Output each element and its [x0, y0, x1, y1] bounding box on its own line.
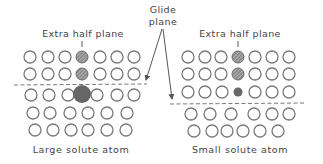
solvent-atom	[111, 51, 123, 63]
solvent-atom	[221, 125, 233, 137]
solvent-atom	[65, 124, 77, 136]
solvent-atom	[199, 51, 211, 63]
solvent-atom	[42, 51, 54, 63]
extra-half-plane-atom	[232, 51, 244, 63]
left-lattice	[14, 41, 147, 136]
solvent-atom	[94, 51, 106, 63]
solvent-atom	[266, 86, 278, 98]
solvent-atom	[272, 125, 284, 137]
small-solute-atom	[234, 88, 243, 97]
solvent-atom	[91, 89, 103, 101]
solvent-atom	[254, 125, 266, 137]
solvent-atom	[215, 68, 227, 80]
right-caption-small-solute: Small solute atom	[192, 144, 288, 155]
solvent-atom	[111, 68, 123, 80]
solvent-atom	[215, 51, 227, 63]
extra-half-plane-atom	[232, 68, 244, 80]
solvent-atom	[42, 68, 54, 80]
solvent-atom	[185, 108, 197, 120]
solvent-atom	[120, 124, 132, 136]
solvent-atom	[204, 108, 216, 120]
glide-plane-arrow-right	[163, 29, 172, 99]
solvent-atom	[101, 124, 113, 136]
glide-plane-line	[170, 103, 306, 104]
solvent-atom	[82, 124, 94, 136]
solvent-atom	[44, 107, 56, 119]
solvent-atom	[188, 125, 200, 137]
solvent-atom	[25, 89, 37, 101]
solvent-atom	[182, 51, 194, 63]
solvent-atom	[29, 124, 41, 136]
solvent-atom	[47, 124, 59, 136]
solvent-atom	[121, 107, 133, 119]
glide-plane-arrow-left	[146, 29, 162, 80]
solvent-atom	[266, 68, 278, 80]
solvent-atom	[249, 68, 261, 80]
solvent-atom	[266, 108, 278, 120]
solvent-atom	[24, 51, 36, 63]
atom-lattices	[14, 29, 306, 137]
solvent-atom	[237, 125, 249, 137]
solvent-atom	[59, 51, 71, 63]
solvent-atom	[59, 68, 71, 80]
solvent-atom	[206, 125, 218, 137]
solvent-atom	[182, 86, 194, 98]
solvent-atom	[249, 86, 261, 98]
solvent-atom	[24, 68, 36, 80]
glide-label-line2: plane	[149, 16, 177, 27]
solvent-atom	[199, 68, 211, 80]
solvent-atom	[283, 68, 295, 80]
solvent-atom	[64, 107, 76, 119]
solvent-atom	[283, 108, 295, 120]
diagram-canvas: Glide plane Extra half plane Large solut…	[0, 0, 323, 164]
solvent-atom	[128, 68, 140, 80]
dislocation-solute-diagram: Glide plane Extra half plane Large solut…	[0, 0, 323, 164]
solvent-atom	[266, 51, 278, 63]
solvent-atom	[182, 68, 194, 80]
glide-label-line1: Glide	[150, 4, 177, 15]
right-lattice	[170, 41, 306, 137]
extra-half-plane-atom	[76, 51, 88, 63]
solvent-atom	[27, 107, 39, 119]
glide-plane-line	[14, 84, 147, 85]
right-extra-half-plane-label: Extra half plane	[199, 28, 281, 39]
solvent-atom	[82, 107, 94, 119]
solvent-atom	[283, 51, 295, 63]
solvent-atom	[94, 68, 106, 80]
solvent-atom	[128, 51, 140, 63]
solvent-atom	[199, 86, 211, 98]
left-caption-large-solute: Large solute atom	[33, 144, 130, 155]
solvent-atom	[216, 86, 228, 98]
left-extra-half-plane-label: Extra half plane	[42, 28, 124, 39]
solvent-atom	[249, 51, 261, 63]
solvent-atom	[111, 89, 123, 101]
solvent-atom	[43, 89, 55, 101]
solvent-atom	[101, 107, 113, 119]
large-solute-atom	[73, 85, 91, 103]
solvent-atom	[128, 89, 140, 101]
solvent-atom	[283, 86, 295, 98]
extra-half-plane-atom	[76, 68, 88, 80]
solvent-atom	[62, 89, 74, 101]
solvent-atom	[225, 108, 237, 120]
solvent-atom	[248, 108, 260, 120]
